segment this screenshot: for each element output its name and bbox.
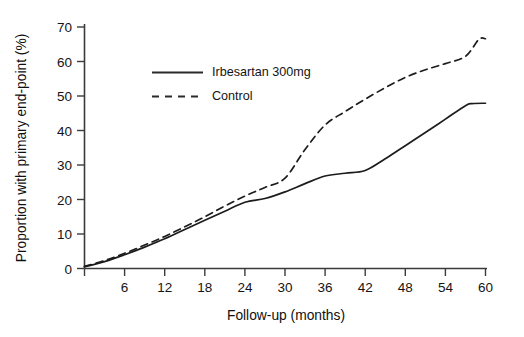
y-tick-label-60: 60 (57, 55, 72, 70)
x-tick-label-24: 24 (237, 280, 253, 295)
y-tick-label-70: 70 (57, 20, 72, 35)
x-tick-label-54: 54 (438, 280, 454, 295)
x-tick-label-12: 12 (157, 280, 172, 295)
x-tick-label-36: 36 (318, 280, 333, 295)
x-tick-label-48: 48 (398, 280, 413, 295)
x-tick-label-42: 42 (358, 280, 373, 295)
x-tick-label-6: 6 (121, 280, 129, 295)
chart-figure: Proportion with primary end-point (%) Fo… (0, 0, 524, 337)
y-tick-label-50: 50 (57, 89, 72, 104)
line-chart: Proportion with primary end-point (%) Fo… (0, 0, 524, 337)
x-tick-label-18: 18 (197, 280, 212, 295)
y-tick-label-10: 10 (57, 227, 72, 242)
chart-legend: Irbesartan 300mg Control (152, 65, 311, 103)
y-tick-label-40: 40 (57, 124, 72, 139)
y-axis-title: Proportion with primary end-point (%) (14, 34, 29, 263)
y-tick-label-20: 20 (57, 193, 72, 208)
x-tick-label-60: 60 (478, 280, 493, 295)
x-tick-label-30: 30 (277, 280, 292, 295)
x-axis-ticks: 6121824303642485460 (85, 269, 494, 296)
y-tick-label-30: 30 (57, 158, 72, 173)
series-line-irbesartan-300mg (85, 103, 486, 267)
legend-label-irbesartan: Irbesartan 300mg (212, 65, 311, 79)
x-axis-title: Follow-up (months) (227, 308, 345, 323)
legend-label-control: Control (212, 89, 253, 103)
y-axis-ticks: 010203040506070 (57, 20, 85, 277)
y-tick-label-0: 0 (64, 262, 72, 277)
